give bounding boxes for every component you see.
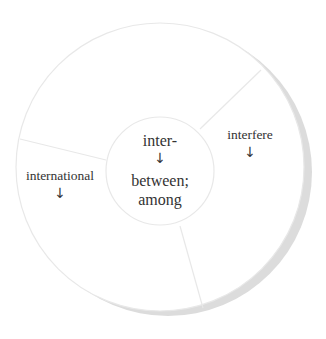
segment-word-interfere: interfere [210, 128, 290, 142]
word-wheel-diagram: inter- ↓ between; among interfere ↓ inte… [0, 0, 326, 339]
down-arrow-icon: ↓ [110, 151, 210, 165]
segment-word-international: international [15, 169, 105, 183]
down-arrow-icon: ↓ [15, 186, 105, 200]
meaning-line-1: between; [110, 173, 210, 189]
down-arrow-icon: ↓ [210, 145, 290, 159]
meaning-line-2: among [110, 192, 210, 208]
root-text: inter- [110, 133, 210, 149]
